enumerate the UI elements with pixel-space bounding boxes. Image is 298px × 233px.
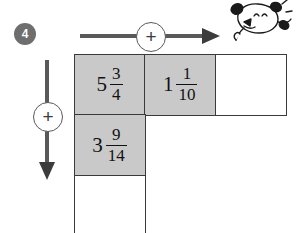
worksheet-exercise: 4 + + 5 3 4 (0, 0, 298, 233)
fraction-part: 1 10 (176, 65, 197, 104)
numerator: 9 (110, 126, 123, 145)
fraction-addition-grid: 5 3 4 1 1 10 (75, 55, 287, 233)
grid-row-2: 3 9 14 (75, 116, 287, 177)
plus-icon: + (145, 27, 156, 46)
grid-row-3 (75, 176, 287, 233)
cartoon-mouse-character-icon (214, 0, 298, 48)
cell-r3c2-empty (144, 175, 216, 233)
whole-part: 5 (97, 74, 108, 95)
cell-r1c2[interactable]: 1 1 10 (144, 54, 216, 116)
cell-r3c1-answer[interactable] (74, 175, 146, 233)
whole-part: 1 (163, 74, 174, 95)
denominator: 4 (110, 84, 123, 104)
mixed-number-r1c2: 1 1 10 (163, 65, 198, 104)
fraction-part: 9 14 (106, 126, 127, 165)
cell-r2c3-empty (215, 114, 287, 176)
add-across-operator: + (136, 22, 166, 52)
cell-r2c2-empty (144, 114, 216, 176)
denominator: 10 (176, 84, 197, 104)
add-down-operator: + (33, 102, 63, 132)
exercise-number-badge: 4 (14, 23, 36, 45)
fraction-part: 3 4 (110, 65, 123, 104)
plus-icon: + (42, 107, 53, 126)
denominator: 14 (106, 145, 127, 165)
mouse-svg (214, 0, 298, 48)
grid-row-1: 5 3 4 1 1 10 (75, 55, 287, 116)
cell-r1c3-answer[interactable] (215, 54, 287, 116)
mixed-number-r1c1: 5 3 4 (97, 65, 123, 104)
cell-r1c1[interactable]: 5 3 4 (74, 54, 146, 116)
whole-part: 3 (92, 135, 103, 156)
numerator: 3 (110, 65, 123, 84)
mixed-number-r2c1: 3 9 14 (92, 126, 127, 165)
numerator: 1 (181, 65, 194, 84)
cell-r3c3-empty (215, 175, 287, 233)
cell-r2c1[interactable]: 3 9 14 (74, 114, 146, 176)
